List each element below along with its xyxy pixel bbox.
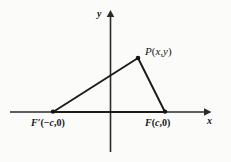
focus-left-open: (− [40,117,49,128]
point-p-name: P [145,45,152,57]
focus-right-close: ,0) [159,117,170,128]
geometry-figure: y x P(x,y) F′(−c,0) F(c,0) [0,0,231,162]
vertex-dot-fprime [51,109,55,113]
y-axis-label: y [97,9,101,19]
focus-left-name: F [31,117,38,128]
x-axis-label: x [207,116,212,126]
segment-fprime-to-p [53,58,138,112]
vertex-dot-p [136,56,141,61]
y-axis-arrowhead [107,10,115,17]
focus-left-close: ,0) [54,117,65,128]
focus-left-label: F′(−c,0) [31,118,65,128]
focus-right-label: F(c,0) [145,118,170,128]
point-p-label: P(x,y) [145,46,172,57]
point-p-close-paren: ) [168,45,172,57]
figure-canvas [0,0,231,162]
vertex-dot-f [163,109,167,113]
focus-right-name: F [145,117,152,128]
segment-p-to-f [138,58,165,112]
